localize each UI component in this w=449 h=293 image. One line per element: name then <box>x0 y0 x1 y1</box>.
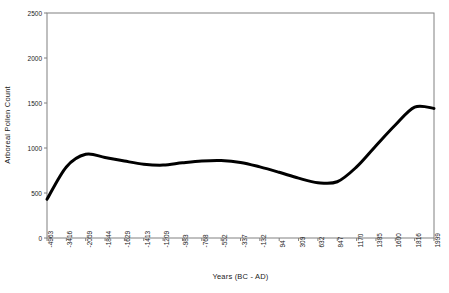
y-tick-label: 1000 <box>14 145 42 152</box>
x-tick-label: -3416 <box>66 231 73 248</box>
y-tick-label: 2000 <box>14 55 42 62</box>
x-tick-label: -1209 <box>163 231 170 248</box>
x-tick-label: 309 <box>298 237 305 248</box>
x-tick-label: 847 <box>337 237 344 248</box>
x-tick-label: 1600 <box>395 233 402 247</box>
x-tick-label: 1170 <box>356 234 363 248</box>
x-tick-label: -337 <box>240 234 247 247</box>
x-tick-label: 1999 <box>434 233 441 247</box>
x-tick-label: -1413 <box>143 231 150 248</box>
y-tick-label: 0 <box>14 235 42 242</box>
x-tick-label: 94 <box>279 240 286 247</box>
plot-area <box>0 0 449 293</box>
x-tick-label: -1844 <box>105 231 112 248</box>
y-tick-label: 500 <box>14 190 42 197</box>
x-tick-label: -1629 <box>124 231 131 248</box>
x-tick-label: -2059 <box>85 231 92 248</box>
pollen-count-chart: Arboreal Pollen Count Years (BC - AD) 05… <box>0 0 449 293</box>
y-tick-label: 1500 <box>14 100 42 107</box>
axis-frame <box>47 13 434 238</box>
x-axis-title: Years (BC - AD) <box>47 272 434 281</box>
x-tick-label: 632 <box>317 237 324 248</box>
x-tick-label: 1385 <box>375 233 382 247</box>
x-tick-label: -4963 <box>47 231 54 248</box>
x-tick-label: -983 <box>182 234 189 247</box>
x-tick-label: -552 <box>221 234 228 247</box>
x-tick-label: -768 <box>201 234 208 247</box>
y-axis-title: Arboreal Pollen Count <box>1 8 15 243</box>
x-tick-label: 1816 <box>414 233 421 247</box>
x-tick-label: -132 <box>259 234 266 247</box>
y-tick-label: 2500 <box>14 10 42 17</box>
